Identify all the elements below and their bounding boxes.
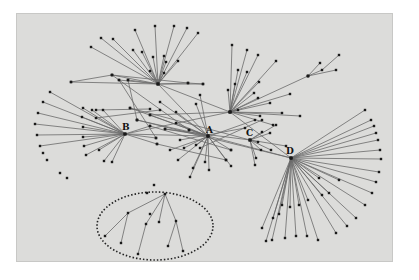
node [281, 112, 283, 114]
network-graph: BACD [0, 0, 419, 280]
node [195, 144, 197, 146]
node [321, 69, 323, 71]
node [278, 213, 280, 215]
tree-edge [165, 194, 176, 221]
node [355, 217, 357, 219]
node [155, 137, 157, 139]
hub-label-d: D [286, 146, 294, 156]
node [318, 177, 320, 179]
tree-node [137, 253, 139, 255]
node [118, 79, 120, 81]
tree-edge [105, 213, 128, 236]
tree-node [145, 223, 147, 225]
edge-t [158, 33, 198, 84]
node [177, 60, 179, 62]
node [328, 192, 330, 194]
cross-edge [322, 55, 339, 70]
node [188, 129, 190, 131]
node [159, 109, 161, 111]
node [197, 32, 199, 34]
tree-edge [138, 224, 146, 254]
node [295, 235, 297, 237]
node [134, 29, 136, 31]
edge-u [230, 72, 247, 112]
edge-d [282, 158, 291, 205]
node [81, 116, 83, 118]
node [199, 147, 201, 149]
node [317, 239, 319, 241]
node [258, 81, 260, 83]
tree-edge [176, 221, 183, 251]
node [42, 101, 44, 103]
node [231, 44, 233, 46]
node [370, 119, 372, 121]
edge-u [228, 90, 230, 112]
node [163, 55, 165, 57]
node [100, 37, 102, 39]
node [234, 83, 236, 85]
node [175, 111, 177, 113]
node [306, 235, 308, 237]
tree-node [175, 220, 177, 222]
node [257, 97, 259, 99]
node [111, 74, 113, 76]
node [265, 240, 267, 242]
node [371, 192, 373, 194]
node [70, 81, 72, 83]
node [307, 199, 309, 201]
node [111, 161, 113, 163]
node [132, 49, 134, 51]
node [82, 136, 84, 138]
isolated-node [42, 152, 44, 154]
node [95, 109, 97, 111]
node [378, 171, 380, 173]
node [373, 125, 375, 127]
node [321, 194, 323, 196]
cross-edge [308, 70, 322, 76]
node [246, 49, 248, 51]
node [260, 149, 262, 151]
node [254, 164, 256, 166]
edge-d [291, 158, 365, 205]
isolated-node [153, 184, 155, 186]
tree-node [182, 250, 184, 252]
hub-label-b: B [122, 122, 130, 132]
isolated-node [146, 192, 148, 194]
node [254, 119, 256, 121]
node [257, 54, 259, 56]
node [346, 225, 348, 227]
isolated-node [66, 177, 68, 179]
node [98, 149, 100, 151]
node [186, 27, 188, 29]
node [269, 132, 271, 134]
node [298, 204, 300, 206]
node [36, 134, 38, 136]
node [230, 149, 232, 151]
node [335, 232, 337, 234]
hub-node-d [289, 156, 292, 159]
node [230, 165, 232, 167]
node [237, 69, 239, 71]
node [364, 109, 366, 111]
node [289, 206, 291, 208]
node [82, 126, 84, 128]
node [102, 109, 104, 111]
node [179, 139, 181, 141]
tree-node [164, 193, 166, 195]
node [270, 149, 272, 151]
node [246, 71, 248, 73]
node [237, 109, 239, 111]
cross-edge [137, 120, 291, 158]
node [91, 109, 93, 111]
node [272, 124, 274, 126]
isolated-node [59, 172, 61, 174]
tree-edge [168, 221, 176, 246]
node [159, 101, 161, 103]
node [192, 167, 194, 169]
node [177, 159, 179, 161]
node [208, 169, 210, 171]
node [379, 149, 381, 151]
node [95, 117, 97, 119]
node [255, 157, 257, 159]
hub-node-u [228, 110, 231, 113]
